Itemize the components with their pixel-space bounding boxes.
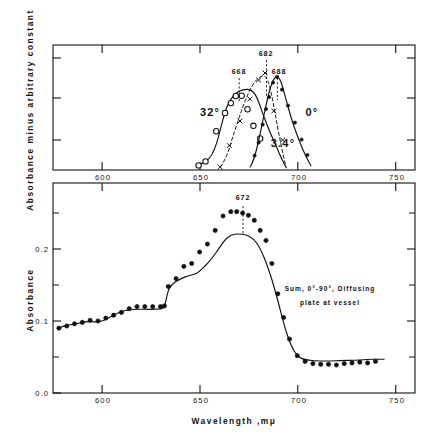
spectra-figure: 600 650 700 750 bbox=[0, 0, 428, 435]
bottom-xtick-700: 700 bbox=[291, 396, 307, 405]
series-3p4deg bbox=[218, 71, 286, 170]
series-3p4deg-line bbox=[220, 76, 286, 167]
bottom-panel-y-ticks bbox=[53, 213, 415, 393]
note-line-2: plate at vessel bbox=[300, 299, 360, 307]
bottom-ytick-0: 0.0 bbox=[35, 389, 49, 398]
top-xtick-750: 750 bbox=[389, 173, 405, 182]
bottom-ytick-0p2: 0.2 bbox=[35, 245, 49, 254]
x-axis-label: Wavelength ,mμ bbox=[192, 416, 277, 426]
y-axis-label-bottom: Absorbance bbox=[25, 268, 35, 331]
peak-label-668: 668 bbox=[232, 67, 247, 76]
y-axis-label-top: Absorbance minus arbitrary constant bbox=[25, 9, 35, 210]
peak-label-688: 688 bbox=[272, 67, 287, 76]
top-panel-frame bbox=[53, 45, 415, 170]
bottom-xtick-750: 750 bbox=[389, 396, 405, 405]
top-xtick-600: 600 bbox=[95, 173, 111, 182]
peak-label-672: 672 bbox=[236, 193, 251, 202]
series-label-3p4deg: 3.4° bbox=[271, 137, 296, 149]
series-label-0deg: 0° bbox=[306, 106, 319, 118]
series-label-32deg: 32° bbox=[200, 106, 220, 118]
bottom-panel: 0.0 0.1 0.2 600 650 700 750 bbox=[35, 183, 415, 405]
bottom-xtick-600: 600 bbox=[95, 396, 111, 405]
peak-label-682: 682 bbox=[259, 49, 274, 58]
top-panel: 600 650 700 750 bbox=[53, 45, 415, 182]
top-xtick-700: 700 bbox=[291, 173, 307, 182]
series-sum-line bbox=[59, 234, 384, 361]
series-0deg bbox=[250, 75, 311, 167]
top-xtick-650: 650 bbox=[193, 173, 209, 182]
bottom-xtick-650: 650 bbox=[193, 396, 209, 405]
note-line-1: Sum, 0°-90°, Diffusing bbox=[285, 285, 376, 293]
bottom-ytick-0p1: 0.1 bbox=[35, 317, 49, 326]
